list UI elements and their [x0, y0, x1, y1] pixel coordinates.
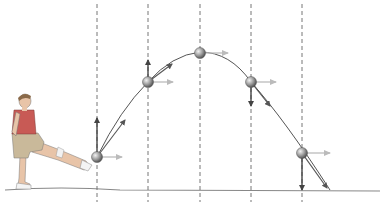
ball-icon: [195, 48, 206, 59]
resultant-velocity-arrow: [152, 64, 172, 79]
trajectory-curve: [97, 52, 330, 190]
resultant-velocity-arrow: [254, 86, 270, 106]
projectile-diagram: [0, 0, 382, 202]
ball-icon: [143, 77, 154, 88]
caption: [120, 0, 300, 2]
ball-icon: [92, 152, 103, 163]
diagram-canvas: [0, 0, 382, 202]
ground-line: [5, 188, 380, 191]
person-kicking-icon: [12, 94, 92, 189]
resultant-velocity-arrow: [305, 157, 327, 188]
ball-icon: [297, 148, 308, 159]
ball-icon: [246, 77, 257, 88]
resultant-velocity-arrow: [100, 120, 125, 153]
velocity-arrows: [97, 53, 330, 190]
balls: [92, 48, 308, 163]
dashed-guides: [97, 4, 302, 202]
